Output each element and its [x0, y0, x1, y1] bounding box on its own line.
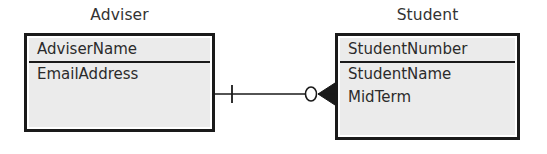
attribute-group-nonkey-adviser: EmailAddress	[29, 63, 210, 86]
attribute-adviser-name: AdviserName	[29, 38, 210, 61]
attribute-group-key-student: StudentNumber	[340, 38, 515, 63]
entity-empty-space-student	[340, 109, 515, 135]
entity-title-adviser: Adviser	[24, 6, 215, 24]
entity-inner-adviser: AdviserName EmailAddress	[29, 38, 210, 127]
attribute-student-name: StudentName	[340, 63, 515, 86]
attribute-group-nonkey-student: StudentName MidTerm	[340, 63, 515, 109]
entity-box-adviser[interactable]: AdviserName EmailAddress	[24, 33, 215, 132]
attribute-adviser-email-address: EmailAddress	[29, 63, 210, 86]
cardinality-crows-foot-student-side	[318, 83, 335, 105]
entity-box-student[interactable]: StudentNumber StudentName MidTerm	[335, 33, 520, 140]
cardinality-optional-circle-student-side	[306, 87, 317, 101]
entity-title-student: Student	[335, 6, 520, 24]
entity-inner-student: StudentNumber StudentName MidTerm	[340, 38, 515, 135]
er-diagram: Adviser AdviserName EmailAddress Student…	[0, 0, 547, 154]
attribute-group-key-adviser: AdviserName	[29, 38, 210, 63]
attribute-student-midterm: MidTerm	[340, 86, 515, 109]
attribute-student-number: StudentNumber	[340, 38, 515, 61]
entity-empty-space-adviser	[29, 86, 210, 127]
